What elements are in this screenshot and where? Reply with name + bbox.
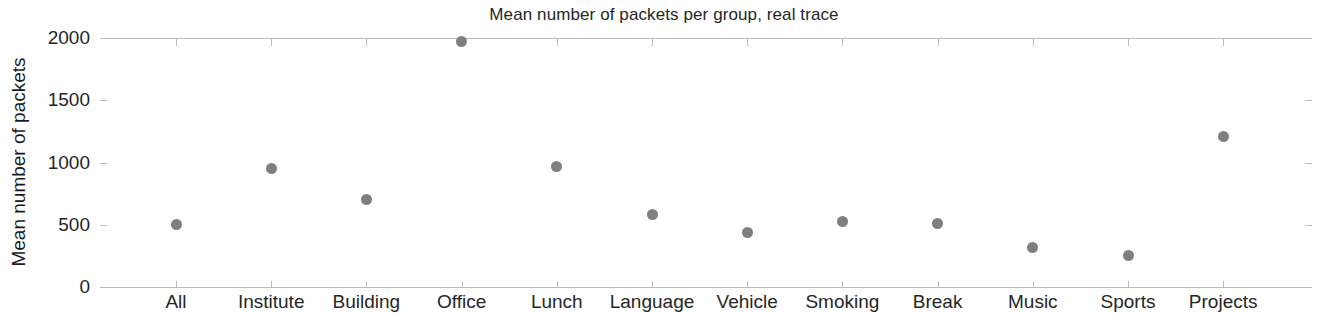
x-axis-tick-mark (557, 39, 558, 46)
axis-spine-bottom (100, 287, 1312, 288)
data-point (1123, 250, 1134, 261)
x-axis-tick-mark (1128, 281, 1129, 288)
y-axis-tick-label: 0 (8, 277, 100, 296)
x-axis-tick-mark (1223, 281, 1224, 288)
x-axis-tick-label: Vehicle (717, 292, 778, 312)
x-axis-tick-label: Music (1008, 292, 1058, 312)
x-axis-tick-label: Projects (1189, 292, 1258, 312)
y-axis-tick-mark (1305, 225, 1312, 226)
y-axis-tick-mark (1305, 163, 1312, 164)
y-axis-tick-mark (100, 225, 107, 226)
x-axis-tick-mark (271, 39, 272, 46)
y-axis-tick-mark (100, 287, 107, 288)
y-axis-tick-label: 2000 (8, 28, 100, 47)
x-axis-tick-label: Building (333, 292, 401, 312)
x-axis-tick-mark (271, 281, 272, 288)
x-axis-tick-label: Office (437, 292, 486, 312)
x-axis-tick-mark (1128, 39, 1129, 46)
x-axis-tick-label: Lunch (531, 292, 583, 312)
data-point (456, 36, 467, 47)
x-axis-tick-label: Language (610, 292, 695, 312)
x-axis-tick-mark (938, 39, 939, 46)
y-axis-tick-mark (1305, 287, 1312, 288)
data-point (932, 218, 943, 229)
x-axis-tick-mark (176, 281, 177, 288)
x-axis-tick-mark (366, 39, 367, 46)
y-axis-tick-label: 1000 (8, 153, 100, 172)
x-axis-tick-label: All (165, 292, 186, 312)
data-point (1218, 131, 1229, 142)
x-axis-tick-label: Smoking (805, 292, 879, 312)
x-axis-tick-mark (747, 39, 748, 46)
y-axis-tick-mark (100, 163, 107, 164)
x-axis-tick-mark (747, 281, 748, 288)
x-axis-tick-mark (1223, 39, 1224, 46)
x-axis-tick-label: Sports (1101, 292, 1156, 312)
y-axis-tick-mark (1305, 100, 1312, 101)
data-point (266, 163, 277, 174)
x-axis-tick-mark (366, 281, 367, 288)
data-point (551, 161, 562, 172)
y-axis-tick-mark (100, 38, 107, 39)
x-axis-tick-mark (557, 281, 558, 288)
axis-spine-top (100, 38, 1312, 39)
chart-title: Mean number of packets per group, real t… (0, 5, 1328, 25)
y-axis-tick-mark (100, 100, 107, 101)
chart-figure: Mean number of packets per group, real t… (0, 0, 1328, 314)
data-point (647, 209, 658, 220)
x-axis-tick-mark (842, 39, 843, 46)
y-axis-tick-mark (1305, 38, 1312, 39)
plot-area (100, 38, 1312, 287)
data-point (837, 216, 848, 227)
data-point (171, 219, 182, 230)
x-axis-tick-mark (842, 281, 843, 288)
x-axis-tick-mark (652, 39, 653, 46)
data-point (1027, 242, 1038, 253)
y-axis-tick-label: 500 (8, 215, 100, 234)
x-axis-tick-label: Institute (238, 292, 305, 312)
data-point (361, 194, 372, 205)
x-axis-tick-mark (176, 39, 177, 46)
x-axis-tick-mark (938, 281, 939, 288)
x-axis-tick-mark (1033, 281, 1034, 288)
x-axis-tick-label: Break (913, 292, 963, 312)
y-axis-tick-label: 1500 (8, 90, 100, 109)
data-point (742, 227, 753, 238)
x-axis-tick-mark (652, 281, 653, 288)
x-axis-tick-mark (462, 281, 463, 288)
y-axis-tick-labels: 0500100015002000 (0, 38, 100, 287)
x-axis-tick-mark (1033, 39, 1034, 46)
